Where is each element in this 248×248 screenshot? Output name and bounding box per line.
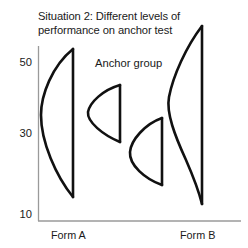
y-axis-tick-50: 50: [2, 56, 32, 68]
chart-title-line-2: performance on anchor test: [38, 24, 228, 38]
distribution-curve: [88, 85, 120, 142]
distribution-curve: [130, 118, 162, 185]
distribution-form-a-anchor: [88, 85, 120, 142]
distribution-form-b-total: [168, 26, 202, 204]
distribution-curve: [168, 26, 202, 204]
chart-title: Situation 2: Different levels of perform…: [38, 10, 228, 37]
chart-title-line-1: Situation 2: Different levels of: [38, 10, 228, 24]
x-axis-tick-form-b: Form B: [180, 229, 215, 241]
distribution-form-b-anchor: [130, 118, 162, 185]
distribution-curve: [41, 49, 73, 197]
anchor-group-annotation: Anchor group: [95, 57, 162, 69]
y-axis-tick-30: 30: [2, 127, 32, 139]
distribution-plot: [0, 0, 248, 248]
y-axis-tick-10: 10: [2, 208, 32, 220]
distribution-form-a-total: [41, 49, 73, 197]
x-axis-tick-form-a: Form A: [51, 229, 86, 241]
chart-figure: Situation 2: Different levels of perform…: [0, 0, 248, 248]
